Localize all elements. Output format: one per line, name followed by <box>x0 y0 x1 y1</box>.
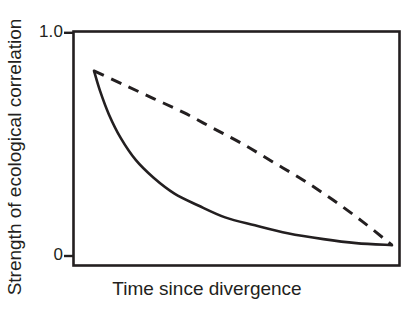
ytick-label-bottom: 0 <box>53 245 63 265</box>
plot-canvas <box>0 0 414 314</box>
plot-frame <box>74 32 400 266</box>
y-axis-title: Strength of ecological correlation <box>0 0 30 314</box>
ytick-label-top: 1.0 <box>39 22 63 42</box>
chart-figure: 1.0 0 Strength of ecological correlation… <box>0 0 414 314</box>
x-axis-title: Time since divergence <box>0 278 414 300</box>
